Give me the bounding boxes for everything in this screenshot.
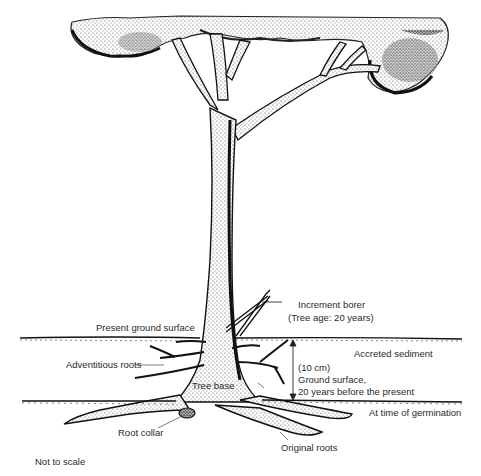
label-depth: (10 cm) <box>298 362 330 374</box>
label-present-ground-surface: Present ground surface <box>96 322 195 334</box>
tree-sediment-diagram: Increment borer (Tree age: 20 years) Pre… <box>0 0 481 476</box>
trunk <box>175 108 260 402</box>
label-not-to-scale: Not to scale <box>35 456 85 468</box>
label-past-ground-line1: Ground surface, <box>298 374 366 386</box>
label-at-germination: At time of germination <box>369 407 461 419</box>
canopy <box>71 16 448 93</box>
tree-illustration <box>0 0 481 476</box>
label-increment-borer: Increment borer <box>298 299 365 311</box>
label-past-ground-line2: 20 years before the present <box>298 386 414 398</box>
label-adventitious-roots: Adventitious roots <box>66 359 142 371</box>
label-tree-age: (Tree age: 20 years) <box>288 312 374 324</box>
depth-arrow <box>290 340 296 400</box>
label-accreted-sediment: Accreted sediment <box>354 348 433 360</box>
label-root-collar: Root collar <box>118 427 163 439</box>
branches <box>172 34 380 140</box>
label-tree-base: Tree base <box>192 380 234 392</box>
label-original-roots: Original roots <box>281 442 338 454</box>
